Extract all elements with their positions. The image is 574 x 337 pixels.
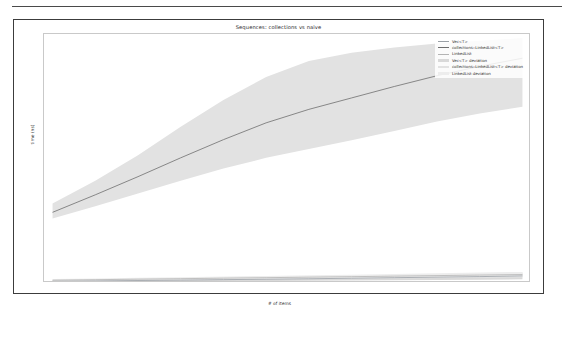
y-tick-mark (43, 182, 44, 183)
plot-area: 0500001000001500002000002500003000003500… (43, 33, 530, 282)
legend-item-label: LinkedList (452, 52, 472, 56)
legend-swatch-icon (438, 47, 449, 48)
x-tick-mark (129, 33, 130, 34)
x-tick-mark (300, 33, 301, 34)
y-axis-label: time (ns) (30, 105, 35, 165)
y-tick-mark (43, 148, 44, 149)
legend-item[interactable]: LinkedList deviation (438, 71, 523, 76)
y-tick-mark (43, 47, 44, 48)
legend-item-label: collections::LinkedList<T> (452, 46, 504, 50)
legend-swatch-icon (438, 54, 449, 55)
legend-swatch-icon (438, 72, 449, 75)
legend-item[interactable]: collections::LinkedList<T> (438, 45, 523, 50)
x-tick-mark (386, 33, 387, 34)
legend-item-label: Vec<T> deviation (452, 59, 487, 63)
legend-item-label: collections::LinkedList<T> deviation (452, 65, 523, 69)
y-tick-mark (43, 216, 44, 217)
legend-item-label: Vec<T> (452, 40, 468, 44)
legend-item[interactable]: Vec<T> deviation (438, 58, 523, 63)
legend-item[interactable]: collections::LinkedList<T> deviation (438, 65, 523, 70)
legend-item-label: LinkedList deviation (452, 72, 491, 76)
chart-legend: Vec<T>collections::LinkedList<T>LinkedLi… (435, 37, 526, 78)
x-tick-mark (215, 33, 216, 34)
legend-item[interactable]: LinkedList (438, 52, 523, 57)
legend-swatch-icon (438, 59, 449, 62)
x-axis-label: # of items (14, 301, 545, 306)
legend-item[interactable]: Vec<T> (438, 39, 523, 44)
y-tick-mark (43, 115, 44, 116)
y-tick-mark (43, 81, 44, 82)
figure-container: Sequences: collections vs naive 05000010… (13, 19, 544, 294)
legend-swatch-icon (438, 66, 449, 69)
chart-title: Sequences: collections vs naive (14, 24, 543, 30)
page-top-rule (12, 6, 562, 7)
y-tick-mark (43, 249, 44, 250)
x-tick-mark (471, 33, 472, 34)
legend-swatch-icon (438, 41, 449, 42)
